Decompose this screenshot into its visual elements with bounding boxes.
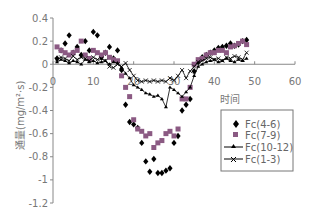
x-axis-title: 时间: [220, 93, 240, 105]
legend-label: Fc(1-3): [245, 154, 280, 165]
y-tick-label: -1.2: [28, 198, 48, 209]
y-tick-label: -0.6: [28, 128, 48, 139]
y-tick-label: -0.4: [28, 105, 48, 116]
y-tick-label: 0.4: [32, 13, 48, 24]
y-tick-label: -1: [38, 174, 48, 185]
x-tick-label: 50: [248, 76, 261, 87]
x-tick-label: 40: [208, 76, 221, 87]
x-tick-label: 10: [87, 76, 100, 87]
y-tick-label: 0: [42, 59, 48, 70]
legend-label: Fc(7-9): [245, 130, 280, 141]
y-axis-title: 通量(mg/m²·s): [15, 81, 26, 150]
legend: Fc(4-6) Fc(7-9) Fc(10-12) Fc(1-3): [221, 110, 293, 171]
flux-time-chart: 0.40.20-0.2-0.4-0.6-0.8-1-1.201020304050…: [0, 0, 317, 221]
y-tick-label: 0.2: [32, 36, 48, 47]
y-tick-label: -0.2: [28, 82, 48, 93]
x-tick-label: 60: [289, 76, 302, 87]
x-tick-label: 0: [50, 76, 56, 87]
y-tick-label: -0.8: [28, 151, 48, 162]
square-marker-icon: [233, 132, 238, 137]
legend-label: Fc(10-12): [245, 142, 293, 153]
legend-label: Fc(4-6): [245, 119, 280, 130]
